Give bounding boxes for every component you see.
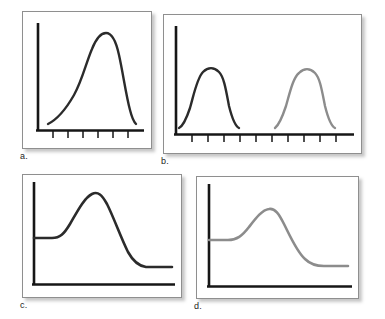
panel-b (163, 14, 362, 154)
panel-c-curve (34, 193, 172, 267)
panel-a-label: a. (20, 151, 28, 161)
panel-b-curve-left (179, 68, 239, 128)
panel-b-label: b. (161, 156, 169, 166)
panel-c-label: c. (20, 300, 27, 310)
panel-d-plot (196, 176, 359, 299)
panel-b-curve-right (275, 69, 335, 128)
panel-a (22, 11, 152, 149)
panel-c-plot (22, 174, 182, 298)
four-panel-curve-figure: a. (0, 0, 385, 319)
panel-c (22, 174, 182, 298)
panel-d-label: d. (194, 301, 202, 311)
panel-a-x-ticks (53, 131, 128, 138)
panel-a-curve (48, 33, 136, 124)
panel-b-x-ticks (192, 135, 336, 142)
panel-d (196, 176, 359, 299)
panel-d-curve (209, 209, 348, 266)
panel-a-plot (22, 11, 152, 149)
panel-b-plot (163, 14, 362, 154)
